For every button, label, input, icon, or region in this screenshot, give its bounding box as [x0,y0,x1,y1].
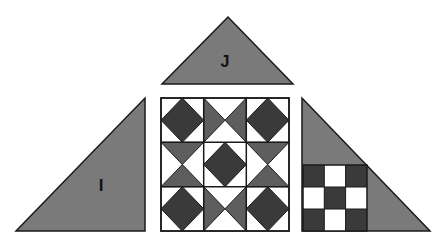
checkerboard [303,165,367,231]
triangle-j: J [162,17,293,84]
label-j: J [221,53,230,70]
quilt-diagram: J I [0,0,435,244]
center-quilt-block [161,98,289,231]
triangle-right [302,98,430,231]
label-i: I [99,176,104,195]
triangle-i: I [16,98,145,231]
